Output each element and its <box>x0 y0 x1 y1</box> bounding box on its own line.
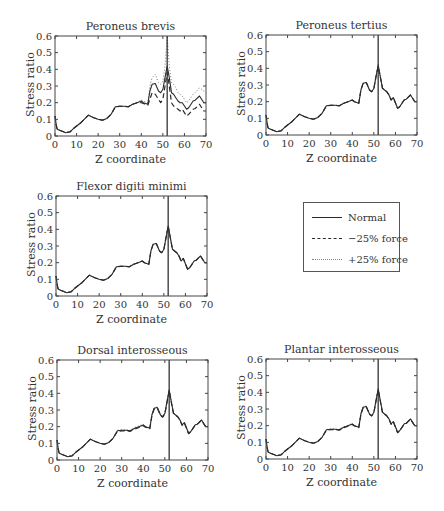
x-tick-label: 50 <box>367 462 380 473</box>
x-tick-label: 10 <box>281 462 294 473</box>
legend-label: Normal <box>348 212 386 223</box>
dotted-line-swatch <box>312 259 342 260</box>
plot-frame <box>266 359 417 459</box>
y-tick-label: 0 <box>257 454 263 465</box>
y-tick-label: 0.1 <box>247 437 263 448</box>
legend-item-minus-25: −25% force <box>312 231 408 245</box>
legend: Normal −25% force +25% force <box>303 202 400 272</box>
x-tick-label: 20 <box>303 462 316 473</box>
legend-item-normal: Normal <box>312 210 386 224</box>
y-tick-label: 0.6 <box>247 354 263 365</box>
dashed-line-swatch <box>312 238 342 239</box>
x-tick-label: 30 <box>324 462 337 473</box>
x-tick-label: 70 <box>411 462 424 473</box>
series-solid <box>266 389 417 456</box>
x-tick-label: 0 <box>263 462 269 473</box>
solid-line-swatch <box>312 217 342 218</box>
y-tick-label: 0.2 <box>247 420 263 431</box>
y-tick-label: 0.5 <box>247 370 263 381</box>
legend-label: +25% force <box>348 254 408 265</box>
legend-label: −25% force <box>348 233 408 244</box>
y-tick-label: 0.4 <box>247 387 263 398</box>
legend-item-plus-25: +25% force <box>312 252 408 266</box>
x-tick-label: 40 <box>346 462 359 473</box>
x-tick-label: 60 <box>389 462 402 473</box>
series-dotted <box>266 388 417 456</box>
y-tick-label: 0.3 <box>247 404 263 415</box>
